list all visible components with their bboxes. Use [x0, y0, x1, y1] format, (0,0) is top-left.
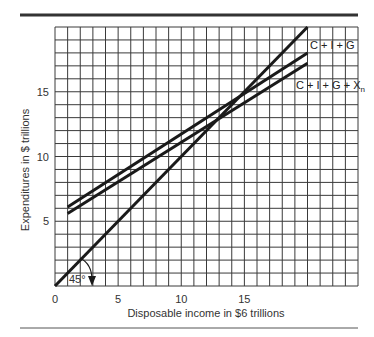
x-axis-label: Disposable income in $6 trillions: [127, 307, 285, 319]
x-tick-label: 10: [175, 293, 187, 305]
chart: 05101551015 C + I + G C + I + G + Xn 45°…: [0, 0, 374, 337]
series-line-2: [68, 63, 308, 213]
x-tick-label: 15: [238, 293, 250, 305]
x-tick-label: 5: [115, 293, 121, 305]
arrowhead-icon: [88, 276, 96, 286]
y-tick-label: 5: [43, 215, 49, 227]
x-tick-label: 0: [52, 293, 58, 305]
angle-label: 45°: [69, 273, 86, 285]
grid: [55, 27, 358, 286]
y-tick-label: 15: [37, 86, 49, 98]
y-axis-label: Expenditures in $ trillions: [19, 108, 31, 231]
series-line-1: [68, 53, 308, 207]
series-label-cig: C + I + G: [310, 39, 355, 51]
y-tick-label: 10: [37, 151, 49, 163]
